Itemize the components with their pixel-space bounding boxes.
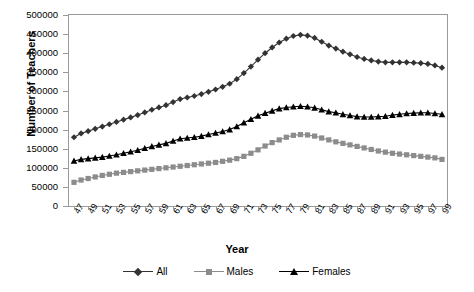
x-axis-tick-mark — [251, 206, 252, 210]
x-axis-tick-mark — [400, 206, 401, 210]
x-axis-tick-mark — [265, 206, 266, 210]
x-axis-tick-mark — [336, 206, 337, 210]
legend-marker-triangle-icon — [290, 268, 298, 275]
y-axis-tick-mark — [63, 34, 68, 35]
x-axis-tick-mark — [230, 206, 231, 210]
x-axis-tick-mark — [95, 206, 96, 210]
x-axis-tick-mark — [88, 206, 89, 210]
y-axis-tick-mark — [63, 168, 68, 169]
x-axis-tick-mark — [109, 206, 110, 210]
y-axis-tick-mark — [63, 53, 68, 54]
x-axis-tick-mark — [421, 206, 422, 210]
legend-entry-males[interactable]: Males — [194, 266, 254, 277]
y-axis-tick-mark — [63, 91, 68, 92]
x-axis-tick-mark — [237, 206, 238, 210]
y-axis-tick-mark — [63, 15, 68, 16]
x-axis-tick-mark — [159, 206, 160, 210]
x-axis-tick-mark — [435, 206, 436, 210]
y-axis-tick-mark — [63, 187, 68, 188]
x-axis-tick-mark — [371, 206, 372, 210]
legend-marker-square-icon — [206, 269, 212, 275]
chart-container: Number of Teachers 050000100000150000200… — [0, 0, 474, 292]
x-axis-tick-mark — [131, 206, 132, 210]
x-axis-tick-mark — [74, 206, 75, 210]
x-axis-tick-mark — [102, 206, 103, 210]
x-axis-tick-mark — [194, 206, 195, 210]
x-axis-tick-mark — [208, 206, 209, 210]
x-axis-tick-mark — [152, 206, 153, 210]
legend-entry-females[interactable]: Females — [279, 266, 350, 277]
y-axis-tick-mark — [63, 111, 68, 112]
x-axis-tick-mark — [166, 206, 167, 210]
x-axis-tick-mark — [300, 206, 301, 210]
chart-legend: AllMalesFemales — [0, 266, 474, 277]
x-axis-tick-mark — [223, 206, 224, 210]
x-axis-tick-mark — [329, 206, 330, 210]
x-axis-tick-mark — [173, 206, 174, 210]
x-axis-tick-mark — [392, 206, 393, 210]
x-axis-tick-mark — [315, 206, 316, 210]
legend-label: Males — [227, 266, 254, 277]
legend-swatch — [194, 267, 224, 277]
y-axis-tick-mark — [63, 130, 68, 131]
x-axis-tick-mark — [124, 206, 125, 210]
x-axis-tick-mark — [308, 206, 309, 210]
x-axis-tick-mark — [428, 206, 429, 210]
x-axis-tick-mark — [272, 206, 273, 210]
x-axis-tick-mark — [442, 206, 443, 210]
x-axis-tick-mark — [414, 206, 415, 210]
x-axis-tick-mark — [187, 206, 188, 210]
x-axis-tick-mark — [201, 206, 202, 210]
x-axis-tick-mark — [364, 206, 365, 210]
legend-entry-all[interactable]: All — [123, 266, 167, 277]
legend-marker-diamond-icon — [134, 267, 142, 275]
x-axis-tick-mark — [343, 206, 344, 210]
x-axis-tick-mark — [244, 206, 245, 210]
y-axis-tick-mark — [63, 149, 68, 150]
x-axis-tick-mark — [180, 206, 181, 210]
x-axis-tick-mark — [407, 206, 408, 210]
x-axis-tick-mark — [293, 206, 294, 210]
x-axis-tick-mark — [258, 206, 259, 210]
x-axis-tick-mark — [216, 206, 217, 210]
legend-swatch — [279, 267, 309, 277]
x-axis-tick-mark — [279, 206, 280, 210]
legend-label: All — [156, 266, 167, 277]
x-axis-tick-mark — [357, 206, 358, 210]
x-axis-title: Year — [0, 243, 474, 255]
x-axis-tick-mark — [138, 206, 139, 210]
x-axis-tick-mark — [385, 206, 386, 210]
x-axis-tick-mark — [81, 206, 82, 210]
y-axis-tick-mark — [63, 72, 68, 73]
legend-label: Females — [312, 266, 350, 277]
x-axis-tick-mark — [350, 206, 351, 210]
x-axis-tick-mark — [322, 206, 323, 210]
x-axis-tick-mark — [145, 206, 146, 210]
x-axis-tick-mark — [286, 206, 287, 210]
x-axis-tick-mark — [116, 206, 117, 210]
y-axis-tick-mark — [63, 206, 68, 207]
legend-swatch — [123, 267, 153, 277]
x-axis-tick-mark — [378, 206, 379, 210]
